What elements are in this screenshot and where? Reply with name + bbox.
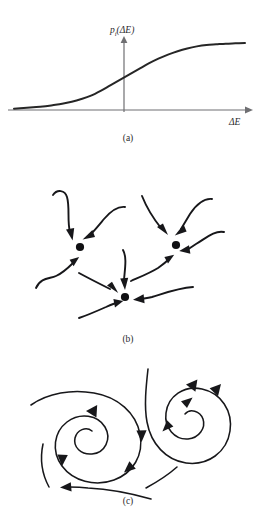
- panel-c-spiral-flow: (c): [0, 360, 266, 518]
- panel-a-sigmoid: pi(ΔE) ΔE (a): [0, 0, 266, 170]
- panel-b-attractor-nodes: (b): [0, 170, 266, 360]
- figure-root: pi(ΔE) ΔE (a): [0, 0, 266, 518]
- spiral-left-tail: [42, 444, 49, 487]
- attractor-node-left: [76, 243, 84, 251]
- panel-b-caption: (b): [122, 334, 133, 345]
- sigmoid-curve: [14, 43, 245, 109]
- attractor-node-right: [172, 241, 180, 249]
- panel-c-canvas: (c): [0, 360, 266, 518]
- panel-a-caption: (a): [123, 133, 134, 144]
- y-axis-label-argument: (ΔE): [117, 25, 135, 36]
- x-axis: [8, 107, 253, 114]
- spiral-right-group: [145, 369, 230, 488]
- y-axis-label: pi(ΔE): [109, 25, 134, 37]
- panel-a-canvas: pi(ΔE) ΔE (a): [0, 0, 266, 170]
- spiral-left-outer: [31, 392, 141, 483]
- y-axis: [121, 36, 128, 112]
- panel-b-canvas: (b): [0, 170, 266, 360]
- panel-c-caption: (c): [123, 496, 134, 507]
- node-right-group: [131, 196, 224, 281]
- spiral-right-outer: [145, 369, 230, 463]
- spiral-left-return: [69, 487, 151, 499]
- x-axis-label: ΔE: [228, 117, 241, 127]
- attractor-node-bottom: [121, 293, 129, 301]
- spiral-left-group: [31, 392, 151, 500]
- spiral-right-tail: [146, 467, 177, 488]
- node-bottom-group: [79, 250, 193, 318]
